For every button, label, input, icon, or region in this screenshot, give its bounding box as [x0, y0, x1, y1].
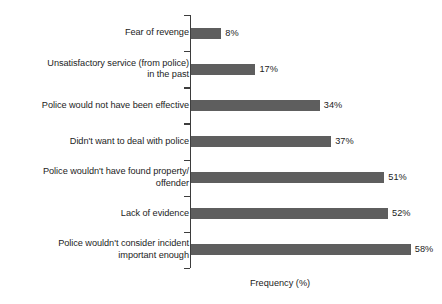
bar — [191, 208, 388, 219]
category-label: Police would not have been effective — [4, 100, 189, 112]
category-label: Police wouldn't consider incident import… — [4, 238, 189, 261]
bar-row: Police wouldn't consider incident import… — [0, 232, 442, 268]
bar-row: Unsatisfactory service (from police) in … — [0, 51, 442, 87]
bar — [191, 244, 411, 255]
bar-and-value: 17% — [191, 64, 278, 75]
bar-value-label: 8% — [225, 28, 238, 39]
bar-value-label: 52% — [392, 208, 410, 219]
bar-and-value: 58% — [191, 244, 433, 255]
bar — [191, 28, 221, 39]
bar-and-value: 34% — [191, 100, 342, 111]
bar-value-label: 51% — [388, 172, 406, 183]
bar-value-label: 37% — [335, 136, 353, 147]
axis-tick — [184, 268, 190, 269]
bar-row: Police wouldn't have found property/ off… — [0, 160, 442, 196]
bar — [191, 100, 320, 111]
bar-row: Police would not have been effective34% — [0, 87, 442, 123]
bar-value-label: 58% — [415, 244, 433, 255]
bar-and-value: 51% — [191, 172, 407, 183]
category-label: Police wouldn't have found property/ off… — [4, 166, 189, 189]
category-label: Unsatisfactory service (from police) in … — [4, 58, 189, 81]
bar-and-value: 8% — [191, 28, 239, 39]
category-label: Didn't want to deal with police — [4, 136, 189, 148]
bar-chart: Fear of revenge8%Unsatisfactory service … — [0, 0, 442, 304]
bar — [191, 136, 331, 147]
bar-row: Fear of revenge8% — [0, 15, 442, 51]
bar-row: Lack of evidence52% — [0, 196, 442, 232]
bar-and-value: 52% — [191, 208, 410, 219]
category-label: Fear of revenge — [4, 27, 189, 39]
x-axis-title: Frequency (%) — [0, 278, 442, 288]
bar-value-label: 17% — [259, 64, 277, 75]
bar-value-label: 34% — [324, 100, 342, 111]
bar — [191, 64, 255, 75]
bar-and-value: 37% — [191, 136, 354, 147]
bar-row: Didn't want to deal with police37% — [0, 123, 442, 159]
bar — [191, 172, 384, 183]
category-label: Lack of evidence — [4, 208, 189, 220]
x-axis-title-text: Frequency (%) — [250, 278, 310, 288]
